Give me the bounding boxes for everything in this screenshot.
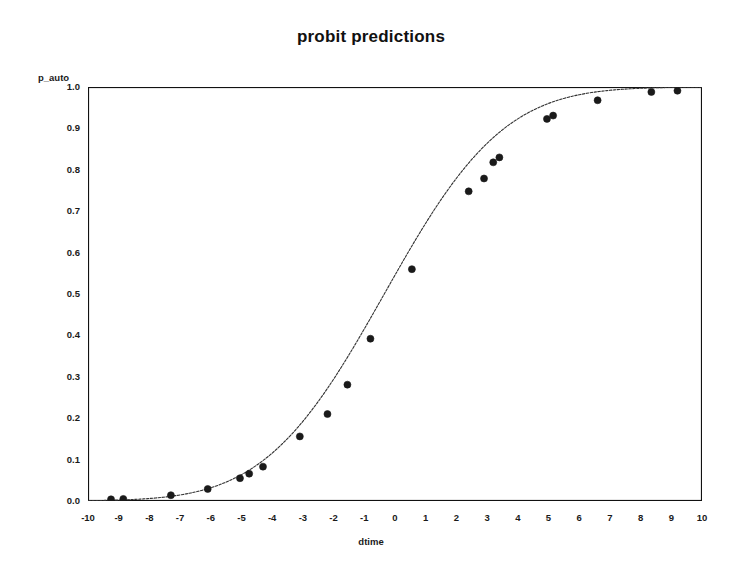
data-point-group	[108, 87, 681, 501]
chart-figure: probit predictions p_auto 0.00.10.20.30.…	[0, 0, 742, 578]
y-tick-label: 0.2	[40, 412, 80, 423]
data-point	[648, 88, 655, 95]
data-point	[296, 433, 303, 440]
data-point	[204, 485, 211, 492]
x-tick-label: 10	[682, 512, 722, 523]
data-point	[236, 475, 243, 482]
data-point	[674, 87, 681, 94]
data-point	[246, 470, 253, 477]
data-point	[550, 112, 557, 119]
data-point	[408, 266, 415, 273]
plot-area	[88, 87, 702, 501]
plot-canvas	[88, 87, 702, 501]
y-tick-label: 1.0	[40, 81, 80, 92]
y-tick-label: 0.3	[40, 371, 80, 382]
y-tick-label: 0.5	[40, 288, 80, 299]
tick-marks	[88, 87, 702, 501]
data-point	[108, 496, 115, 501]
y-tick-label: 0.8	[40, 164, 80, 175]
plot-frame	[89, 88, 702, 501]
data-point	[344, 381, 351, 388]
data-point	[259, 463, 266, 470]
y-tick-label: 0.4	[40, 329, 80, 340]
y-tick-label: 0.7	[40, 205, 80, 216]
data-point	[324, 411, 331, 418]
y-tick-label: 0.1	[40, 454, 80, 465]
data-point	[167, 492, 174, 499]
y-tick-label: 0.0	[40, 495, 80, 506]
data-point	[120, 495, 127, 501]
x-axis-label: dtime	[0, 536, 742, 547]
data-point	[496, 154, 503, 161]
data-point	[465, 188, 472, 195]
data-point	[490, 159, 497, 166]
y-tick-label: 0.9	[40, 122, 80, 133]
data-point	[594, 97, 601, 104]
y-tick-label: 0.6	[40, 247, 80, 258]
data-point	[367, 335, 374, 342]
data-point	[481, 175, 488, 182]
chart-title: probit predictions	[0, 27, 742, 47]
probit-curve	[88, 87, 702, 501]
